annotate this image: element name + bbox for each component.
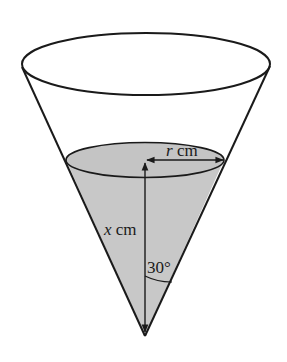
cone-rim <box>22 33 270 95</box>
angle-label: 30° <box>147 258 171 277</box>
radius-label: r cm <box>166 141 198 160</box>
cone-diagram: r cm x cm 30° <box>0 0 287 362</box>
height-label: x cm <box>103 220 137 239</box>
